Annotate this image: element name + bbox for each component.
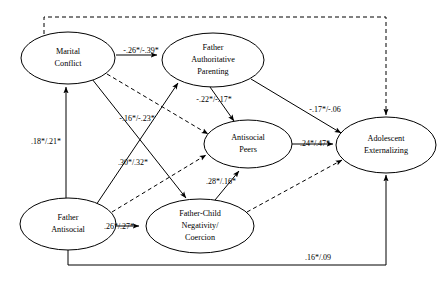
coefficient-marital-to-parenting: -.26*/-.39* [123, 46, 159, 55]
node-label-marital-conflict-line2: Conflict [55, 59, 83, 68]
coefficient-negativity-to-peers: .28*/.16* [206, 177, 236, 186]
coefficient-antisocial-to-parenting: -.16*/-.23* [119, 114, 155, 123]
coefficient-peers-to-externalizing: .24*/.47* [300, 139, 330, 148]
node-label-externalizing-line1: Adolescent [368, 134, 406, 143]
node-label-externalizing-line2: Externalizing [364, 146, 408, 155]
coefficient-parenting-to-externalizing: -.17*/-.06 [309, 105, 341, 114]
node-label-marital-conflict-line1: Marital [56, 47, 81, 56]
coefficient-antisocial-to-externalizing-bottom: .16*/.09 [305, 253, 331, 262]
path-diagram: Marital Conflict Father Authoritative Pa… [0, 0, 440, 281]
path-nodes: Marital Conflict Father Authoritative Pa… [20, 32, 436, 253]
path-model-canvas: Marital Conflict Father Authoritative Pa… [0, 0, 440, 281]
edge-negativity-to-externalizing-dashed [247, 160, 342, 212]
node-label-father-antisocial-line2: Antisocial [51, 225, 85, 234]
coefficient-antisocial-to-negativity: .26*/.27* [104, 222, 134, 231]
edge-marital-to-negativity [92, 79, 186, 198]
coefficient-parenting-to-peers: -.22*/-.17* [196, 95, 232, 104]
edge-antisocial-to-parenting [96, 83, 178, 205]
node-label-parenting-line3: Parenting [197, 67, 228, 76]
node-label-antisocial-peers-line1: Antisocial [231, 133, 265, 142]
coefficient-marital-to-negativity: .30*/.32* [118, 158, 148, 167]
node-label-negativity-line2: Negativity/ [182, 221, 220, 230]
node-label-negativity-line1: Father-Child [179, 209, 221, 218]
node-label-parenting-line2: Authoritative [191, 55, 235, 64]
node-label-negativity-line3: Coercion [185, 233, 215, 242]
node-label-parenting-line1: Father [203, 43, 224, 52]
node-label-father-antisocial-line1: Father [58, 213, 79, 222]
node-father-authoritative-parenting: Father Authoritative Parenting [162, 33, 264, 87]
node-adolescent-externalizing: Adolescent Externalizing [336, 117, 436, 173]
node-father-antisocial: Father Antisocial [20, 198, 116, 250]
node-marital-conflict: Marital Conflict [21, 32, 115, 84]
node-father-child-negativity: Father-Child Negativity/ Coercion [146, 199, 254, 253]
node-label-antisocial-peers-line2: Peers [239, 145, 257, 154]
node-antisocial-peers: Antisocial Peers [204, 120, 292, 168]
edge-parenting-to-peers [210, 87, 234, 121]
coefficient-antisocial-to-marital: .18*/.21* [31, 137, 61, 146]
